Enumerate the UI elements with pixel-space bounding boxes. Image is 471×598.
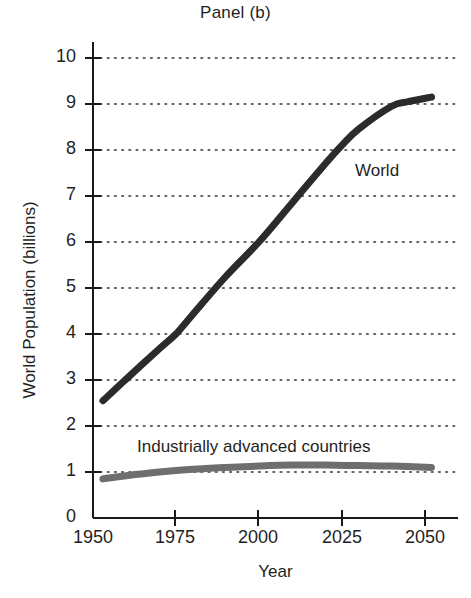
plot-area <box>0 0 471 598</box>
series-line-world <box>103 97 432 401</box>
chart-figure: Panel (b) World Population (billions) Ye… <box>0 0 471 598</box>
gridlines <box>93 58 458 472</box>
axes <box>93 42 458 518</box>
